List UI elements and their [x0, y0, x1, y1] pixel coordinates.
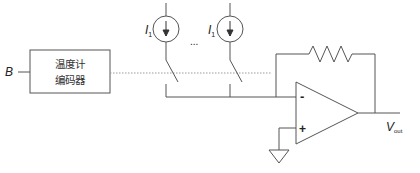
current-source-1-label: I1 [145, 23, 152, 38]
encoder-label-line2: 编码器 [55, 74, 86, 86]
output-label: Vout [386, 120, 403, 134]
arrow-down-icon [163, 30, 169, 36]
opamp-noninverting-label: + [299, 122, 306, 136]
encoder-label-line1: 温度计 [55, 58, 86, 70]
encoder-box [30, 50, 110, 93]
feedback-resistor [309, 46, 352, 62]
circuit-diagram: B 温度计 编码器 I1 I1 ... - + Vout [0, 0, 420, 173]
switch-2 [230, 60, 242, 82]
ellipsis: ... [190, 36, 198, 47]
ground-wire [279, 128, 296, 150]
opamp-inverting-label: - [300, 89, 304, 104]
switch-1 [166, 60, 178, 82]
input-label: B [5, 65, 13, 79]
ground-icon [269, 150, 289, 163]
feedback-wire-right [352, 54, 375, 113]
arrow-down-icon [227, 30, 233, 36]
current-source-2-label: I1 [208, 23, 215, 38]
